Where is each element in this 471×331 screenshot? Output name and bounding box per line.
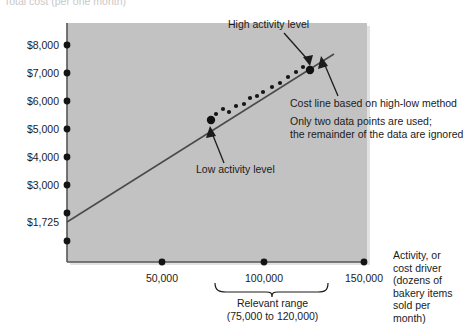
x-axis-caption-line-6: month) xyxy=(393,312,471,325)
y-tick-label: $5,000 xyxy=(27,123,59,135)
high-low-method-cost-chart: Total cost (per one month) xyxy=(0,0,471,331)
data-point xyxy=(255,94,259,98)
x-axis-caption-line-3: (dozens of xyxy=(393,274,471,287)
low-activity-level-label: Low activity level xyxy=(196,163,275,176)
data-point xyxy=(214,112,218,116)
x-axis-caption: Activity, or cost driver (dozens of bake… xyxy=(393,249,471,325)
y-tick-dot xyxy=(64,42,71,49)
data-point xyxy=(301,65,305,69)
data-point xyxy=(234,104,238,108)
y-axis-tick-labels: $8,000 $7,000 $6,000 $5,000 $4,000 $3,00… xyxy=(0,0,59,331)
y-tick-dot xyxy=(64,238,71,245)
y-tick-label: $3,000 xyxy=(27,179,59,191)
relevant-range-title: Relevant range xyxy=(180,297,365,310)
note-line-2: the remainder of the data are ignored xyxy=(290,128,465,141)
x-tick-dot xyxy=(361,259,368,266)
data-point xyxy=(227,110,231,114)
data-point xyxy=(242,102,246,106)
x-tick-dot xyxy=(261,259,268,266)
x-axis-caption-line-2: cost driver xyxy=(393,262,471,275)
x-tick-dot xyxy=(159,259,166,266)
data-point xyxy=(294,70,298,74)
relevant-range-caption: Relevant range (75,000 to 120,000) xyxy=(180,297,365,323)
plot-area-shadow-right xyxy=(367,26,370,265)
y-tick-label-intercept: $1,725 xyxy=(27,216,59,228)
low-activity-point xyxy=(207,116,215,124)
x-axis-caption-line-5: sold per xyxy=(393,299,471,312)
y-tick-dot xyxy=(64,154,71,161)
high-activity-point xyxy=(306,66,314,74)
data-point xyxy=(261,90,265,94)
y-tick-dot xyxy=(64,126,71,133)
relevant-range-brace xyxy=(215,283,328,297)
x-axis-caption-line-1: Activity, or xyxy=(393,249,471,262)
y-tick-dot xyxy=(64,70,71,77)
x-tick-label: 50,000 xyxy=(146,272,178,284)
data-point xyxy=(286,75,290,79)
note-line-1: Only two data points are used; xyxy=(290,115,465,128)
y-tick-label: $8,000 xyxy=(27,39,59,51)
x-tick-label: 100,000 xyxy=(245,272,283,284)
y-tick-dot xyxy=(64,98,71,105)
data-point xyxy=(278,81,282,85)
y-tick-label: $7,000 xyxy=(27,67,59,79)
x-axis-caption-line-4: bakery items xyxy=(393,287,471,300)
data-point xyxy=(270,85,274,89)
high-activity-level-label: High activity level xyxy=(228,18,309,31)
y-tick-label: $6,000 xyxy=(27,95,59,107)
y-tick-label: $4,000 xyxy=(27,151,59,163)
y-tick-dot xyxy=(64,210,71,217)
relevant-range-values: (75,000 to 120,000) xyxy=(180,310,365,323)
x-tick-label: 150,000 xyxy=(345,272,383,284)
data-point xyxy=(221,107,225,111)
cost-line-label: Cost line based on high-low method xyxy=(290,97,457,110)
high-low-method-note: Only two data points are used; the remai… xyxy=(290,115,465,141)
data-point xyxy=(248,96,252,100)
y-tick-dot xyxy=(64,182,71,189)
